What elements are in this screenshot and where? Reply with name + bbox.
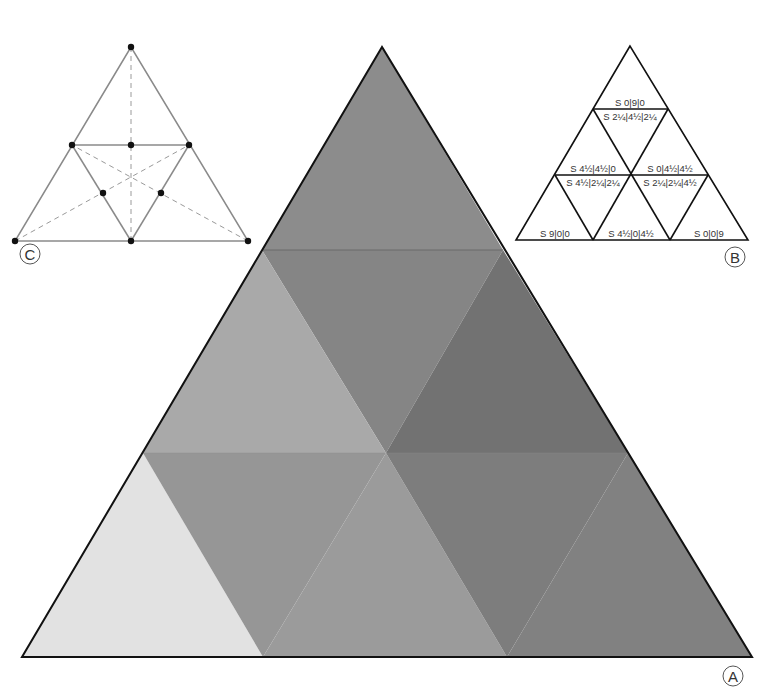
- cell-label: S 0|0|9: [694, 228, 724, 239]
- cell-label: S 9|0|0: [540, 228, 570, 239]
- panel-b-label: B: [730, 249, 740, 266]
- c-point: [100, 190, 106, 196]
- cell-label: S 4½|4½|0: [570, 163, 616, 174]
- c-point: [158, 190, 164, 196]
- cell-label: S 2¼|2¼|4½: [643, 177, 697, 188]
- cell-label: S 4½|0|4½: [608, 228, 654, 239]
- c-point: [128, 44, 134, 50]
- c-point: [69, 142, 75, 148]
- cell-label: S 0|4½|4½: [647, 163, 693, 174]
- b-outline: [516, 46, 748, 240]
- c-point: [128, 238, 134, 244]
- panel-a-label: A: [728, 668, 738, 685]
- cell-label: S 4½|2¼|2¼: [566, 177, 621, 188]
- c-point: [245, 238, 251, 244]
- c-point: [12, 238, 18, 244]
- panel-c-label: C: [25, 246, 36, 263]
- panel-c: C: [12, 44, 251, 264]
- c-point: [186, 142, 192, 148]
- panel-b-labels: S 0|9|0 S 2¼|4½|2¼ S 4½|4½|0 S 0|4½|4½ S…: [540, 97, 745, 267]
- figure-canvas: A S 0|9|0 S 2¼|4½|2¼ S 4½|4½|0 S 0|4½|4½…: [0, 0, 781, 695]
- region-top: [262, 47, 503, 250]
- cell-label: S 2¼|4½|2¼: [603, 111, 658, 122]
- panel-b: [516, 46, 748, 240]
- cell-label: S 0|9|0: [615, 97, 645, 108]
- c-point: [128, 142, 134, 148]
